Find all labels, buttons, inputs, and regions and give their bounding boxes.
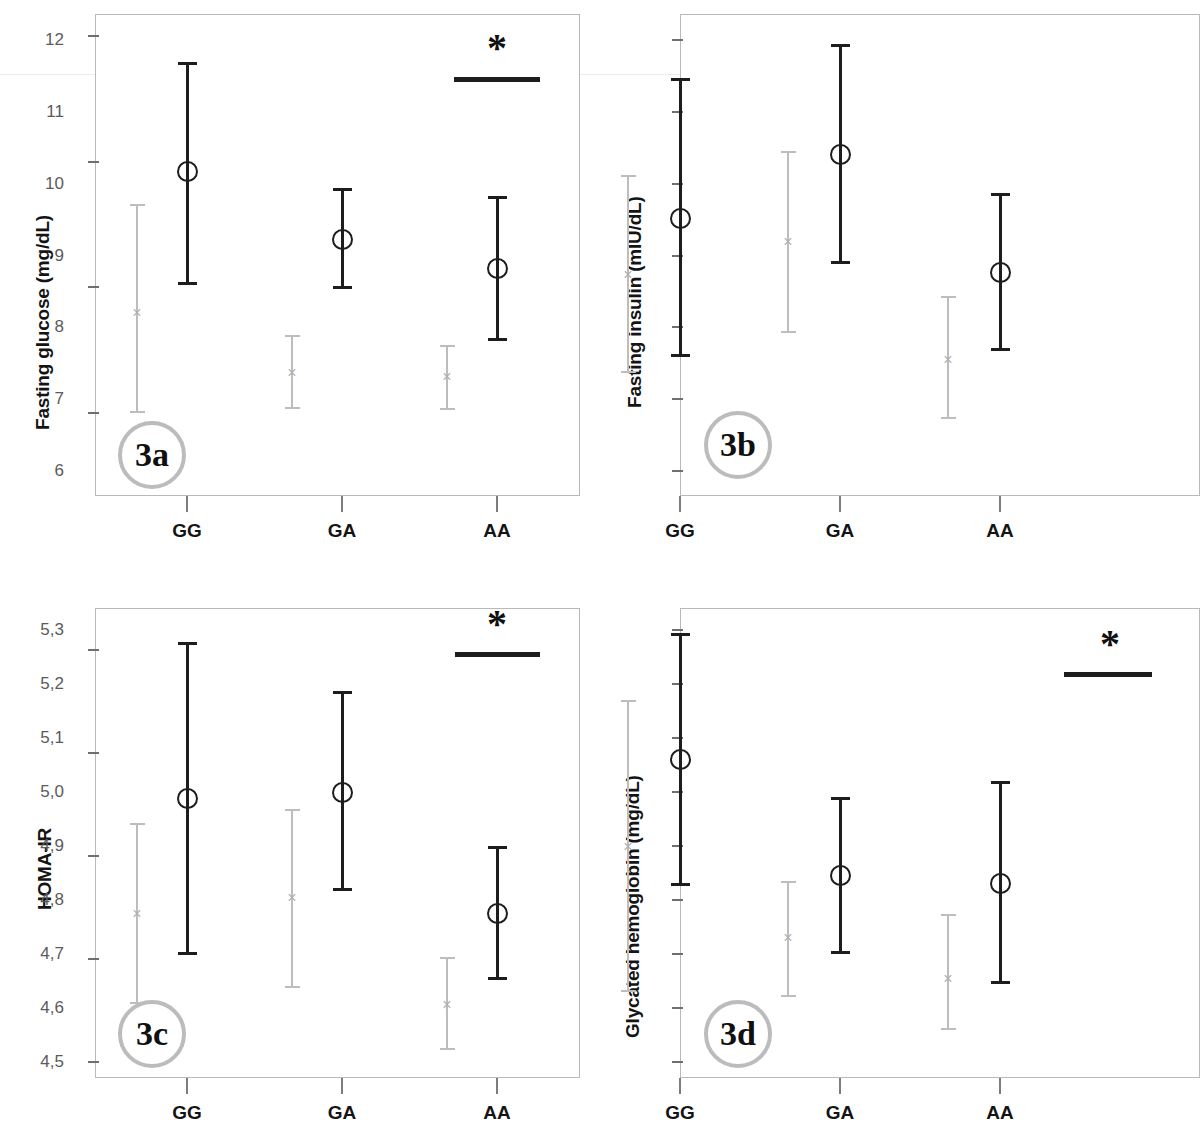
error-bar-cap-upper — [831, 44, 850, 47]
x-tick-mark — [186, 496, 188, 512]
significance-asterisk-3a: * — [487, 28, 507, 68]
error-bar-cap-lower — [941, 1028, 956, 1030]
error-bar-cap-upper — [178, 642, 197, 645]
data-point-circle-3c-ga — [332, 782, 353, 803]
error-bar-cap-lower — [781, 331, 796, 333]
y-tick-mark — [672, 1061, 683, 1063]
y-tick-label: 8 — [55, 317, 64, 337]
y-tick-mark — [88, 35, 99, 37]
y-tick-label: 4,8 — [40, 890, 64, 910]
error-bar-cap-upper — [285, 809, 300, 811]
error-bar-cap-lower — [621, 990, 636, 992]
error-bar-cap-lower — [488, 338, 507, 341]
y-tick-mark — [672, 899, 683, 901]
x-tick-label-aa: AA — [483, 520, 510, 542]
x-tick-label-gg: GG — [172, 1102, 202, 1124]
data-point-cross-3c-ga — [285, 890, 300, 905]
panel-badge-3a: 3a — [118, 421, 186, 489]
data-point-cross-3b-gg — [621, 267, 636, 282]
data-point-cross-3c-aa — [440, 997, 455, 1012]
data-point-circle-3d-ga — [830, 865, 851, 886]
x-tick-mark — [186, 1078, 188, 1094]
error-bar-cap-lower — [285, 986, 300, 988]
error-bar-cap-lower — [991, 981, 1010, 984]
error-bar-cap-upper — [488, 196, 507, 199]
y-tick-label: 4,9 — [40, 836, 64, 856]
error-bar-cap-upper — [333, 188, 352, 191]
y-tick-label: 9 — [55, 246, 64, 266]
error-bar-cap-lower — [831, 951, 850, 954]
significance-asterisk-3d: * — [1100, 624, 1120, 664]
x-tick-label-aa: AA — [986, 1102, 1013, 1124]
y-tick-mark — [672, 629, 683, 631]
y-tick-mark — [88, 752, 99, 754]
x-tick-mark — [496, 496, 498, 512]
y-tick-label: 5,0 — [40, 782, 64, 802]
error-bar-cap-lower — [333, 888, 352, 891]
y-tick-mark — [672, 39, 683, 41]
y-tick-label: 11 — [46, 102, 64, 122]
y-tick-mark — [88, 161, 99, 163]
y-tick-label: 6 — [55, 461, 64, 481]
panel-3d: Glycated hemoglobin (mg/dL) 5,35,25,15,0… — [600, 590, 1184, 1140]
error-bar-cap-upper — [991, 193, 1010, 196]
y-tick-label: 5,1 — [40, 728, 64, 748]
error-bar-cap-lower — [440, 408, 455, 410]
data-point-cross-3d-aa — [941, 971, 956, 986]
x-tick-label-gg: GG — [172, 520, 202, 542]
error-bar-cap-lower — [781, 995, 796, 997]
x-tick-label-gg: GG — [665, 1102, 695, 1124]
panel-badge-3d: 3d — [704, 1000, 772, 1068]
error-bar-cap-lower — [941, 417, 956, 419]
error-bar-cap-lower — [178, 952, 197, 955]
error-bar-cap-upper — [831, 797, 850, 800]
panel-3b: Fasting insulin (mIU/dL) 1211109876GGGAA… — [600, 0, 1184, 560]
significance-bar-3c — [455, 652, 540, 657]
data-point-circle-3a-aa — [487, 258, 508, 279]
panel-badge-3b: 3b — [704, 411, 772, 479]
error-bar-cap-upper — [130, 823, 145, 825]
y-tick-label: 7 — [55, 389, 64, 409]
data-point-cross-3a-ga — [285, 365, 300, 380]
error-bar-cap-lower — [621, 371, 636, 373]
error-bar-cap-upper — [440, 957, 455, 959]
x-tick-mark — [839, 1078, 841, 1094]
y-tick-mark — [88, 286, 99, 288]
error-bar-cap-lower — [991, 348, 1010, 351]
error-bar-cap-lower — [178, 282, 197, 285]
error-bar-cap-lower — [130, 411, 145, 413]
x-tick-label-aa: AA — [986, 520, 1013, 542]
data-point-circle-3a-ga — [332, 229, 353, 250]
error-bar-cap-lower — [488, 977, 507, 980]
data-point-circle-3a-gg — [177, 161, 198, 182]
data-point-cross-3b-aa — [941, 352, 956, 367]
y-tick-label: 5,2 — [40, 674, 64, 694]
error-bar-cap-upper — [130, 204, 145, 206]
error-bar-cap-upper — [781, 881, 796, 883]
y-tick-label: 4,7 — [40, 944, 64, 964]
x-tick-label-ga: GA — [328, 1102, 357, 1124]
y-tick-label: 4,6 — [40, 998, 64, 1018]
x-tick-label-gg: GG — [665, 520, 695, 542]
significance-bar-3a — [454, 77, 540, 82]
data-point-cross-3d-ga — [781, 930, 796, 945]
y-tick-mark — [88, 649, 99, 651]
data-point-circle-3c-gg — [177, 788, 198, 809]
significance-asterisk-3c: * — [487, 604, 507, 644]
x-tick-mark — [679, 1078, 681, 1094]
data-point-circle-3d-aa — [990, 873, 1011, 894]
error-bar-cap-upper — [781, 151, 796, 153]
error-bar-cap-upper — [333, 691, 352, 694]
data-point-cross-3a-aa — [440, 369, 455, 384]
y-tick-label: 12 — [45, 30, 64, 50]
error-bar-cap-upper — [991, 781, 1010, 784]
y-tick-mark — [672, 953, 683, 955]
x-tick-mark — [496, 1078, 498, 1094]
error-bar-cap-upper — [440, 345, 455, 347]
error-bar-cap-lower — [333, 286, 352, 289]
error-bar-cap-lower — [671, 883, 690, 886]
error-bar-cap-upper — [178, 62, 197, 65]
y-tick-mark — [672, 398, 683, 400]
x-tick-mark — [679, 496, 681, 512]
